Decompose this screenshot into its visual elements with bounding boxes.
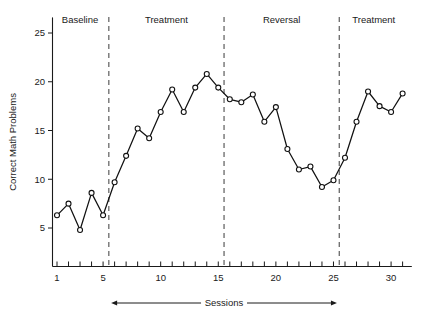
phase-label-4: Treatment — [352, 14, 395, 25]
phase-label-3: Reversal — [263, 14, 301, 25]
x-tick-label-1: 1 — [54, 272, 59, 283]
x-tick-label-15: 15 — [213, 272, 224, 283]
chart-figure: 510152025151015202530BaselineTreatmentRe… — [0, 0, 443, 324]
data-point-marker — [66, 201, 71, 206]
data-point-marker — [216, 85, 221, 90]
x-tick-label-5: 5 — [100, 272, 105, 283]
data-point-marker — [400, 91, 405, 96]
x-tick-label-20: 20 — [271, 272, 282, 283]
axes-group: 510152025151015202530 — [34, 17, 411, 282]
data-point-marker — [55, 213, 60, 218]
data-point-marker — [343, 155, 348, 160]
x-tick-label-10: 10 — [155, 272, 166, 283]
data-point-marker — [331, 178, 336, 183]
data-point-marker — [227, 97, 232, 102]
data-point-marker — [89, 190, 94, 195]
data-point-marker — [135, 126, 140, 131]
data-point-marker — [262, 119, 267, 124]
x-tick-label-30: 30 — [386, 272, 397, 283]
data-point-marker — [296, 167, 301, 172]
data-point-marker — [78, 227, 83, 232]
axis-titles-group: Correct Math Problems — [7, 93, 18, 191]
data-series-group — [55, 71, 406, 232]
data-point-marker — [193, 85, 198, 90]
data-point-marker — [319, 185, 324, 190]
line-chart-svg: 510152025151015202530BaselineTreatmentRe… — [0, 0, 443, 324]
data-point-marker — [239, 100, 244, 105]
data-point-marker — [308, 164, 313, 169]
data-point-marker — [170, 87, 175, 92]
data-point-marker — [204, 71, 209, 76]
x-tick-label-25: 25 — [328, 272, 339, 283]
x-axis-arrowhead-left — [111, 300, 117, 305]
y-tick-label-20: 20 — [34, 76, 45, 87]
x-axis-arrowhead-right — [331, 300, 337, 305]
y-tick-label-15: 15 — [34, 125, 45, 136]
x-axis-title: Sessions — [205, 297, 244, 308]
y-tick-label-25: 25 — [34, 27, 45, 38]
phase-labels-group: BaselineTreatmentReversalTreatment — [62, 14, 396, 25]
data-point-marker — [101, 213, 106, 218]
data-point-marker — [377, 104, 382, 109]
phase-label-1: Baseline — [62, 14, 98, 25]
data-point-marker — [147, 136, 152, 141]
data-point-marker — [181, 109, 186, 114]
data-point-marker — [285, 147, 290, 152]
data-point-marker — [389, 109, 394, 114]
data-point-marker — [354, 119, 359, 124]
data-point-marker — [158, 109, 163, 114]
y-axis-title: Correct Math Problems — [7, 93, 18, 191]
x-axis-title-group: Sessions — [111, 297, 337, 308]
data-point-marker — [366, 89, 371, 94]
data-point-marker — [250, 92, 255, 97]
data-point-marker — [112, 180, 117, 185]
data-point-marker — [124, 153, 129, 158]
y-tick-label-5: 5 — [40, 222, 45, 233]
phase-dividers-group — [109, 17, 339, 267]
data-point-marker — [273, 105, 278, 110]
y-tick-label-10: 10 — [34, 174, 45, 185]
phase-label-2: Treatment — [145, 14, 188, 25]
